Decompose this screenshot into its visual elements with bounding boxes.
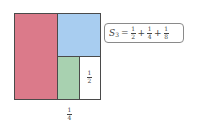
term-eighth: 18 xyxy=(164,26,169,40)
term-half: 12 xyxy=(131,26,136,40)
term-quarter: 14 xyxy=(147,26,152,40)
bottom-quarter-label: 1 4 xyxy=(67,107,72,121)
red-half-region xyxy=(14,13,58,100)
bottom-quarter-denominator: 4 xyxy=(68,115,72,121)
inner-half-label: 1 2 xyxy=(87,70,92,84)
bottom-quarter-numerator: 1 xyxy=(68,107,72,113)
inner-half-numerator: 1 xyxy=(88,70,92,76)
partial-sum-equation: S3 = 12 + 14 + 18 xyxy=(104,23,184,43)
inner-half-denominator: 2 xyxy=(88,78,92,84)
plus-sign: + xyxy=(154,28,162,38)
sum-symbol: S3 xyxy=(109,28,119,38)
plus-sign: + xyxy=(138,28,146,38)
equals-sign: = xyxy=(121,28,129,38)
green-eighth-region xyxy=(57,56,80,100)
sum-subscript: 3 xyxy=(115,31,119,38)
blue-quarter-region xyxy=(57,13,101,57)
